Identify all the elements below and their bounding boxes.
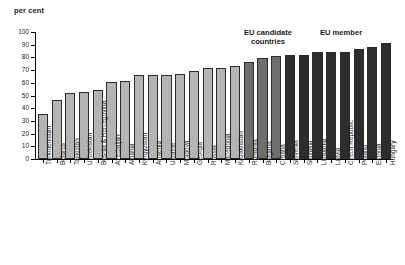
x-axis-tick bbox=[43, 160, 44, 163]
x-axis-category-label: Hungary bbox=[389, 140, 396, 165]
x-axis-tick bbox=[166, 160, 167, 163]
x-axis-tick bbox=[70, 160, 71, 163]
x-axis-tick bbox=[139, 160, 140, 163]
y-axis-tick-label: 40 bbox=[9, 103, 29, 112]
x-axis-category-label: Ukraine bbox=[169, 143, 176, 165]
x-axis-category-label: Latvia bbox=[334, 148, 341, 165]
x-axis-tick bbox=[57, 160, 58, 163]
x-axis-tick bbox=[98, 160, 99, 163]
x-axis-tick bbox=[276, 160, 277, 163]
y-axis-tick-label: 0 bbox=[9, 154, 29, 163]
y-axis-tick: 80 bbox=[31, 57, 35, 58]
x-axis-tick bbox=[180, 160, 181, 163]
y-axis-tick: 90 bbox=[31, 45, 35, 46]
x-axis-category-label: Slovenia bbox=[292, 140, 299, 165]
y-axis-tick: 70 bbox=[31, 70, 35, 71]
bar-slot bbox=[201, 32, 215, 159]
x-axis-tick bbox=[235, 160, 236, 163]
x-axis-category-label: Estonia bbox=[375, 143, 382, 165]
y-axis-tick-label: 10 bbox=[9, 141, 29, 150]
y-axis-tick: 0 bbox=[31, 159, 35, 160]
y-axis-tick-label: 80 bbox=[9, 52, 29, 61]
x-axis-tick bbox=[372, 160, 373, 163]
bar bbox=[326, 52, 336, 159]
x-axis-tick bbox=[331, 160, 332, 163]
x-axis-category-label: Albania bbox=[128, 143, 135, 165]
x-axis-tick bbox=[221, 160, 222, 163]
y-axis-tick: 100 bbox=[31, 32, 35, 33]
y-axis-tick-label: 50 bbox=[9, 91, 29, 100]
y-axis-tick-label: 100 bbox=[9, 27, 29, 36]
y-axis-tick: 20 bbox=[31, 134, 35, 135]
x-axis-category-label: Tajikistan bbox=[73, 138, 80, 165]
y-axis-title: per cent bbox=[14, 6, 44, 15]
x-axis-category-label: Armenia bbox=[155, 141, 162, 165]
x-axis-tick bbox=[84, 160, 85, 163]
x-axis-category-label: Lithuania bbox=[320, 139, 327, 165]
x-axis-tick bbox=[249, 160, 250, 163]
x-axis-category-label: Croatia bbox=[279, 144, 286, 165]
x-axis-category-label: Azerbaijan bbox=[114, 134, 121, 165]
x-axis-tick bbox=[194, 160, 195, 163]
x-axis-tick bbox=[317, 160, 318, 163]
x-axis-category-label: Romania bbox=[251, 139, 258, 165]
y-axis-tick: 30 bbox=[31, 121, 35, 122]
y-axis-tick: 40 bbox=[31, 108, 35, 109]
x-axis-category-label: Bosnia & Hercegovina bbox=[100, 101, 107, 165]
x-axis-tick bbox=[263, 160, 264, 163]
bar-slot bbox=[269, 32, 283, 159]
x-axis-tick bbox=[125, 160, 126, 163]
x-axis-tick bbox=[208, 160, 209, 163]
x-axis-tick bbox=[153, 160, 154, 163]
annotation-eu-candidate-countries: EU candidate countries bbox=[232, 28, 304, 46]
annotation-eu-member: EU member bbox=[305, 28, 377, 37]
x-axis-tick bbox=[290, 160, 291, 163]
y-axis-tick-label: 30 bbox=[9, 116, 29, 125]
bar-chart-figure: per cent 1009080706050403020100 Turkmeni… bbox=[0, 0, 405, 265]
x-axis-tick bbox=[112, 160, 113, 163]
x-axis-category-label: Macedonia bbox=[224, 133, 231, 165]
x-axis-category-label: Uzbekistan bbox=[86, 133, 93, 165]
x-axis-category-label: Bulgaria bbox=[265, 141, 272, 165]
bar bbox=[354, 49, 364, 159]
y-axis-tick: 10 bbox=[31, 146, 35, 147]
x-axis-category-label: Georgia bbox=[196, 142, 203, 165]
y-axis-tick-label: 60 bbox=[9, 78, 29, 87]
x-axis-category-label: Moldova bbox=[183, 140, 190, 165]
x-axis-category-label: Poland bbox=[361, 145, 368, 165]
x-axis-category-label: Slovakia bbox=[306, 140, 313, 165]
y-axis-tick: 50 bbox=[31, 96, 35, 97]
x-axis-category-label: Russia bbox=[210, 145, 217, 165]
x-axis-tick bbox=[304, 160, 305, 163]
x-axis-tick bbox=[359, 160, 360, 163]
x-axis-category-label: Kazakhstan bbox=[237, 131, 244, 165]
y-axis-tick: 60 bbox=[31, 83, 35, 84]
x-axis-category-label: Kyrgyzstan bbox=[141, 133, 148, 165]
x-axis-category-label: Turkmenistan bbox=[45, 126, 52, 165]
x-axis-tick bbox=[345, 160, 346, 163]
bar-slot bbox=[366, 32, 380, 159]
x-axis-category-label: Belarus bbox=[59, 143, 66, 165]
y-axis-tick-label: 90 bbox=[9, 40, 29, 49]
y-axis-tick-label: 70 bbox=[9, 65, 29, 74]
y-axis-tick-label: 20 bbox=[9, 129, 29, 138]
x-axis-tick bbox=[386, 160, 387, 163]
x-axis-category-label: Czech Republic bbox=[347, 120, 354, 165]
